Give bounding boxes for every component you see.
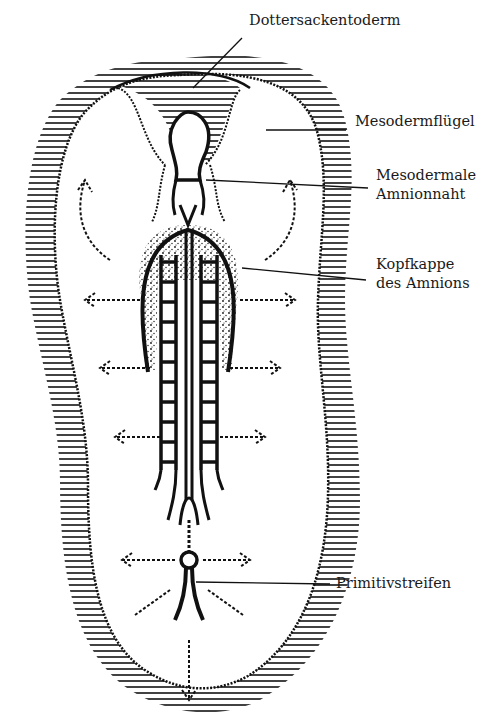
label-mesodermale-amnionnaht: Mesodermale Amnionnaht [376, 166, 476, 204]
label-mesodermfluegel: Mesodermflügel [355, 112, 475, 131]
label-line: Mesodermflügel [355, 113, 475, 129]
label-line: Amnionnaht [376, 185, 476, 204]
label-line: Dottersackentoderm [249, 12, 401, 28]
label-kopfkappe-des-amnions: Kopfkappe des Amnions [376, 255, 470, 293]
label-line: Kopfkappe [376, 255, 470, 274]
label-dottersackentoderm: Dottersackentoderm [249, 11, 401, 30]
embryo-diagram [0, 0, 497, 720]
label-line: des Amnions [376, 274, 470, 293]
label-primitivstreifen: Primitivstreifen [336, 574, 451, 593]
label-line: Primitivstreifen [336, 575, 451, 591]
label-line: Mesodermale [376, 166, 476, 185]
